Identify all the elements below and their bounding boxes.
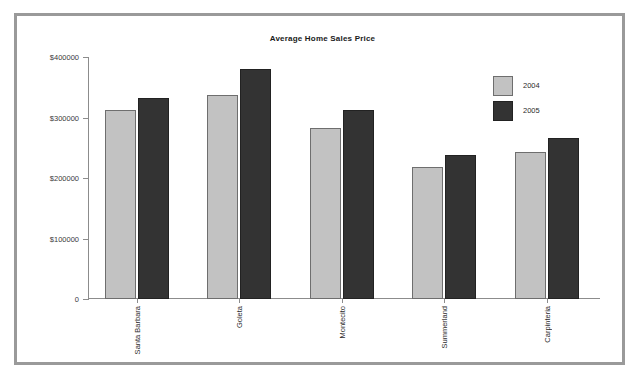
legend-item-2005: 2005: [493, 98, 540, 123]
legend-item-2004: 2004: [493, 73, 540, 98]
legend-label: 2005: [523, 106, 540, 115]
bar-2005: [138, 98, 169, 299]
x-axis-tick-mark: [137, 299, 138, 303]
x-axis-category-label: Carpinteria: [543, 306, 552, 343]
bar-group: [207, 44, 271, 299]
legend-label: 2004: [523, 81, 540, 90]
legend-swatch: [493, 101, 513, 121]
x-axis-category-label: Santa Barbara: [133, 306, 142, 354]
x-axis-tick-mark: [547, 299, 548, 303]
bar-2004: [412, 167, 443, 299]
x-axis-category-label: Montecito: [338, 306, 347, 339]
x-axis-tick-mark: [239, 299, 240, 303]
x-axis-tick-mark: [444, 299, 445, 303]
y-axis-tick-label: $100000: [50, 234, 79, 243]
bar-2004: [105, 110, 136, 299]
chart-legend: 20042005: [493, 73, 540, 123]
bar-group: [412, 44, 476, 299]
bar-2004: [207, 95, 238, 299]
bar-2005: [240, 69, 271, 299]
y-axis-tick-label: $400000: [50, 53, 79, 62]
x-axis-tick-mark: [342, 299, 343, 303]
y-axis-tick-mark: [83, 299, 89, 300]
bar-2005: [548, 138, 579, 299]
chart-frame: Average Home Sales Price $400000$300000$…: [14, 13, 625, 365]
chart-title: Average Home Sales Price: [17, 34, 628, 43]
bar-2004: [310, 128, 341, 299]
y-axis-tick-label: $200000: [50, 174, 79, 183]
bar-2004: [515, 152, 546, 299]
x-axis-category-label: Goleta: [235, 306, 244, 328]
bar-group: [310, 44, 374, 299]
bar-2005: [445, 155, 476, 299]
y-axis-tick-label: $300000: [50, 113, 79, 122]
bar-2005: [343, 110, 374, 299]
legend-swatch: [493, 76, 513, 96]
y-axis-tick-label: 0: [75, 295, 79, 304]
bar-group: [105, 44, 169, 299]
x-axis-category-label: Summerland: [440, 306, 449, 349]
